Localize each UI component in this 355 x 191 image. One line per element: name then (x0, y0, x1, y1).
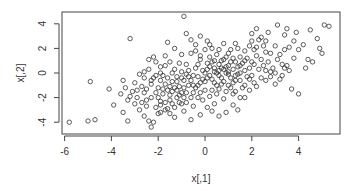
data-point (215, 52, 219, 56)
data-point (198, 34, 202, 38)
data-point (215, 92, 219, 96)
data-point (264, 78, 268, 82)
data-point (170, 79, 174, 83)
data-point (294, 30, 298, 34)
data-point (287, 45, 291, 49)
data-point (123, 86, 127, 90)
data-point (196, 75, 200, 79)
y-tick-label: 2 (37, 45, 48, 51)
data-point (278, 52, 282, 56)
data-point (261, 63, 265, 67)
data-point (238, 95, 242, 99)
data-point (275, 23, 279, 27)
data-point (184, 62, 188, 66)
data-point (170, 71, 174, 75)
data-point (191, 104, 195, 108)
data-point (247, 66, 251, 70)
data-point (147, 57, 151, 61)
data-point (137, 72, 141, 76)
data-point (222, 41, 226, 45)
data-point (243, 95, 247, 99)
x-axis-label: x[,1] (192, 173, 211, 184)
data-point (285, 27, 289, 31)
data-point (189, 51, 193, 55)
data-point (142, 70, 146, 74)
data-point (182, 109, 186, 113)
y-axis-label: x[,2] (15, 63, 26, 82)
data-point (189, 78, 193, 82)
y-tick-label: 4 (37, 21, 48, 27)
data-point (198, 91, 202, 95)
data-point (259, 57, 263, 61)
data-point (156, 86, 160, 90)
data-point (121, 78, 125, 82)
data-point (128, 36, 132, 40)
data-point (273, 82, 277, 86)
data-point (217, 114, 221, 118)
data-point (165, 76, 169, 80)
x-tick-label: 2 (249, 146, 255, 157)
data-point (182, 14, 186, 18)
data-point (327, 24, 331, 28)
data-point (189, 118, 193, 122)
data-point (292, 39, 296, 43)
data-point (67, 120, 71, 124)
y-tick-label: -2 (37, 93, 48, 102)
data-point (121, 110, 125, 114)
data-point (278, 77, 282, 81)
scatter-plot: -6-4-2024 -4-2024 x[,1] x[,2] (0, 0, 355, 191)
data-point (135, 88, 139, 92)
data-point (126, 119, 130, 123)
data-point (229, 76, 233, 80)
data-point (250, 39, 254, 43)
data-point (154, 105, 158, 109)
data-point (296, 92, 300, 96)
data-point (154, 60, 158, 64)
data-point (144, 87, 148, 91)
data-point (119, 92, 123, 96)
data-point (264, 39, 268, 43)
data-point (238, 55, 242, 59)
data-point (315, 36, 319, 40)
data-point (142, 114, 146, 118)
data-point (163, 100, 167, 104)
data-point (144, 104, 148, 108)
y-tick-label: -4 (37, 117, 48, 126)
data-point (224, 110, 228, 114)
data-point (184, 31, 188, 35)
data-point (126, 98, 130, 102)
data-point (266, 30, 270, 34)
data-point (184, 91, 188, 95)
data-point (179, 70, 183, 74)
data-point (292, 56, 296, 60)
data-point (163, 63, 167, 67)
data-point (135, 95, 139, 99)
data-point (222, 97, 226, 101)
data-point (308, 28, 312, 32)
data-point (238, 78, 242, 82)
data-point (172, 46, 176, 50)
data-point (259, 76, 263, 80)
data-point (212, 102, 216, 106)
data-point (247, 88, 251, 92)
data-point (296, 47, 300, 51)
y-tick-label: 0 (37, 70, 48, 76)
data-point (107, 87, 111, 91)
data-point (133, 81, 137, 85)
data-point (203, 47, 207, 51)
data-point (254, 54, 258, 58)
data-point (205, 105, 209, 109)
data-point (172, 115, 176, 119)
data-point (168, 60, 172, 64)
data-point (151, 55, 155, 59)
data-point (231, 67, 235, 71)
data-point (175, 75, 179, 79)
data-point (322, 23, 326, 27)
data-point (320, 51, 324, 55)
data-point (140, 84, 144, 88)
data-point (247, 44, 251, 48)
x-tick-label: 4 (296, 146, 302, 157)
data-point (182, 95, 186, 99)
data-point (243, 49, 247, 53)
data-point (271, 66, 275, 70)
